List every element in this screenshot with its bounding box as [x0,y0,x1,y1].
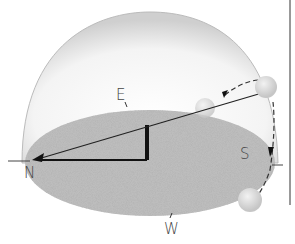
label-south: S [240,145,250,163]
sun-high [255,76,277,98]
celestial-dome-diagram: E N S W [0,0,295,244]
label-west: W [164,220,179,238]
label-north: N [24,164,35,182]
label-east: E [116,86,125,104]
sun-below-horizon [238,188,262,212]
